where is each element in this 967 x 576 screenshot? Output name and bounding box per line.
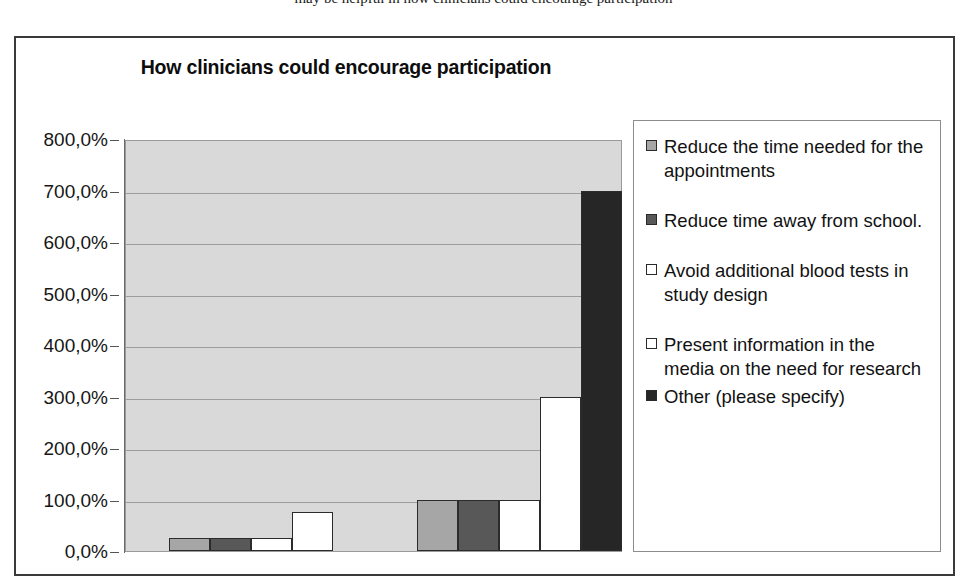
gridline (126, 347, 621, 348)
legend-label: Other (please specify) (664, 385, 845, 409)
legend-swatch (646, 390, 657, 401)
y-axis-tick-mark (110, 243, 119, 244)
legend-item: Present information in the media on the … (646, 333, 930, 381)
y-axis-tick-mark (110, 346, 119, 347)
bar (458, 500, 499, 552)
legend-item: Avoid additional blood tests in study de… (646, 259, 930, 307)
chart-frame: How clinicians could encourage participa… (14, 36, 955, 576)
legend-swatch (646, 338, 657, 349)
gridline (126, 193, 621, 194)
y-axis-tick-mark (110, 501, 119, 502)
legend-swatch (646, 214, 657, 225)
legend-label: Avoid additional blood tests in study de… (664, 259, 930, 307)
scanned-page-text-fragment: may be helpful in how clinicians could e… (0, 0, 967, 8)
chart-legend: Reduce the time needed for the appointme… (633, 120, 941, 552)
y-axis-tick-label: 300,0% (44, 387, 108, 409)
y-axis-tick-label: 400,0% (44, 335, 108, 357)
y-axis: 800,0%700,0%600,0%500,0%400,0%300,0%200,… (16, 132, 120, 560)
legend-label: Reduce time away from school. (664, 209, 922, 233)
bar (210, 538, 251, 551)
y-axis-tick-label: 100,0% (44, 490, 108, 512)
y-axis-tick-label: 800,0% (44, 129, 108, 151)
legend-item: Reduce time away from school. (646, 209, 930, 233)
legend-label: Reduce the time needed for the appointme… (664, 135, 930, 183)
plot-area (125, 140, 622, 552)
bar (417, 500, 458, 552)
y-axis-tick-label: 200,0% (44, 438, 108, 460)
y-axis-tick-label: 700,0% (44, 181, 108, 203)
y-axis-tick-mark (110, 295, 119, 296)
bar (499, 500, 540, 552)
bar (581, 191, 622, 552)
y-axis-tick-mark (110, 140, 119, 141)
legend-swatch (646, 140, 657, 151)
y-axis-tick-mark (110, 552, 119, 553)
y-axis-tick-label: 600,0% (44, 232, 108, 254)
y-axis-tick-mark (110, 449, 119, 450)
legend-swatch (646, 264, 657, 275)
y-axis-tick-mark (110, 398, 119, 399)
bar (292, 512, 333, 551)
gridline (126, 296, 621, 297)
gridline (126, 244, 621, 245)
y-axis-tick-label: 0,0% (65, 541, 108, 563)
bar (251, 538, 292, 551)
bar (169, 538, 210, 551)
chart-title: How clinicians could encourage participa… (76, 56, 616, 79)
legend-item: Reduce the time needed for the appointme… (646, 135, 930, 183)
legend-label: Present information in the media on the … (664, 333, 930, 381)
legend-item: Other (please specify) (646, 385, 930, 409)
y-axis-tick-label: 500,0% (44, 284, 108, 306)
y-axis-tick-mark (110, 192, 119, 193)
bar (540, 397, 581, 552)
